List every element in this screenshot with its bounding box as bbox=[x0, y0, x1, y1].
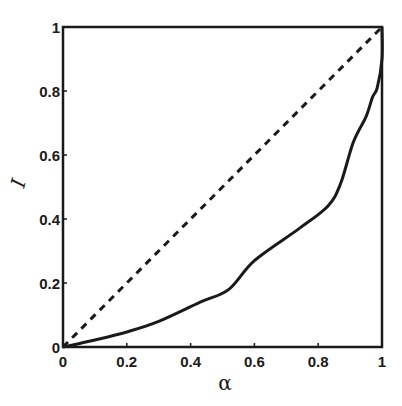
y-tick-label: 1 bbox=[52, 19, 60, 36]
y-tick-labels: 00.20.40.60.81 bbox=[39, 19, 61, 356]
y-tick-label: 0.4 bbox=[39, 211, 61, 228]
x-tick-label: 0.2 bbox=[116, 353, 137, 370]
y-tick-label: 0.2 bbox=[39, 275, 60, 292]
x-tick-labels: 00.20.40.60.81 bbox=[59, 353, 386, 370]
chart: 00.20.40.60.81 00.20.40.60.81 α I bbox=[0, 0, 402, 406]
y-tick-label: 0.8 bbox=[39, 83, 60, 100]
x-tick-label: 0.8 bbox=[308, 353, 329, 370]
x-tick-label: 0.4 bbox=[180, 353, 202, 370]
x-tick-label: 1 bbox=[378, 353, 386, 370]
x-tick-label: 0 bbox=[59, 353, 67, 370]
plot-lines bbox=[63, 27, 382, 347]
series-diagonal bbox=[63, 27, 382, 347]
y-axis-label: I bbox=[5, 175, 31, 191]
y-tick-label: 0.6 bbox=[39, 147, 60, 164]
x-axis-label: α bbox=[218, 371, 232, 395]
x-tick-label: 0.6 bbox=[244, 353, 265, 370]
y-tick-label: 0 bbox=[52, 339, 60, 356]
